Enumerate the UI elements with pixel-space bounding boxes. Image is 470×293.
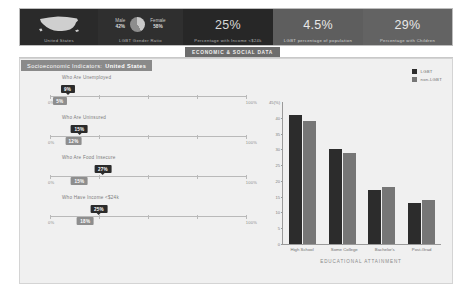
slider-value-lgbt[interactable]: 27% <box>95 165 112 173</box>
slider-tick <box>197 175 198 179</box>
chart-x-tick-label: Some College <box>331 247 358 252</box>
us-map-icon <box>38 14 80 35</box>
slider-value-lgbt[interactable]: 9% <box>61 85 75 93</box>
kpi-children-value: 29% <box>395 18 421 32</box>
kpi-gender-caption: LGBT Gender Ratio <box>98 38 183 43</box>
slider-track[interactable] <box>50 96 246 97</box>
legend-item[interactable]: non-LGBT <box>412 77 442 82</box>
chart-x-axis-title: EDUCATIONAL ATTAINMENT <box>282 259 440 264</box>
slider-tick <box>246 175 247 179</box>
slider-value-lgbt[interactable]: 15% <box>71 125 88 133</box>
slider-tick <box>99 175 100 179</box>
kpi-children-caption: Percentage with Children <box>363 38 452 43</box>
slider-tick <box>99 135 100 139</box>
chart-bar[interactable] <box>303 121 316 244</box>
chart-y-tick-label: 25 <box>262 163 280 168</box>
chart-y-tick-label: 30 <box>262 147 280 152</box>
kpi-population-caption: LGBT percentage of population <box>273 38 363 43</box>
panel-title-subject: United States <box>105 63 146 69</box>
chart-y-tick <box>281 212 284 213</box>
chart-bar[interactable] <box>422 200 435 244</box>
chart-y-tick <box>281 165 284 166</box>
slider-min-label: 0% <box>48 180 54 185</box>
female-value: 58% <box>150 24 165 31</box>
kpi-gender-ratio[interactable]: Male 42% Female 58% LGBT Gender Ratio <box>98 9 183 45</box>
chart-bar[interactable] <box>408 203 421 244</box>
panel-title-text: Socioeconomic Indicators: <box>27 63 102 69</box>
panel-title: Socioeconomic Indicators: United States <box>21 60 152 71</box>
kpi-income-value: 25% <box>215 18 241 32</box>
kpi-population-value: 4.5% <box>303 18 333 32</box>
legend-swatch <box>412 69 417 74</box>
female-stat: Female 58% <box>150 18 165 32</box>
chart-bar[interactable] <box>289 115 302 244</box>
slider-value-non-lgbt[interactable]: 15% <box>71 177 88 185</box>
slider-tick <box>246 95 247 99</box>
chart-y-tick-label: 40 <box>262 115 280 120</box>
slider-list: Who Are Unemployed0%100%9%5%Who Are Unin… <box>40 75 255 235</box>
male-value: 42% <box>115 24 125 31</box>
chart-x-tick-label: Post-Grad <box>412 247 432 252</box>
slider-label: Who Have Income <$24k <box>62 195 119 200</box>
slider-tick <box>50 215 51 219</box>
slider-max-label: 100% <box>246 220 257 225</box>
slider-tick <box>197 215 198 219</box>
chart-y-tick <box>281 181 284 182</box>
chart-y-tick <box>281 149 284 150</box>
slider-tick <box>148 215 149 219</box>
chart-bar-group <box>368 187 395 244</box>
kpi-with-children[interactable]: 29% Percentage with Children <box>363 9 452 45</box>
slider-label: Who Are Unemployed <box>62 75 111 80</box>
chart-bar[interactable] <box>343 153 356 245</box>
chart-y-tick <box>281 244 284 245</box>
kpi-strip: United States Male 42% Female 58% LGBT G… <box>19 8 453 46</box>
slider-tick <box>197 95 198 99</box>
legend-label: non-LGBT <box>421 77 442 82</box>
slider-tick <box>148 135 149 139</box>
kpi-region[interactable]: United States <box>20 9 98 45</box>
chart-y-tick <box>281 197 284 198</box>
slider-value-non-lgbt[interactable]: 5% <box>53 97 67 105</box>
legend-swatch <box>412 77 417 82</box>
chart-y-tick-label: 15 <box>262 194 280 199</box>
chart-x-tick-labels: High SchoolSome CollegeBachelor'sPost-Gr… <box>282 247 440 252</box>
chart-y-tick-label: 20 <box>262 178 280 183</box>
slider-tick <box>246 215 247 219</box>
chart-bar[interactable] <box>368 190 381 244</box>
slider-tick <box>50 175 51 179</box>
legend-item[interactable]: LGBT <box>412 69 442 74</box>
chart-y-tick-label: 35 <box>262 131 280 136</box>
kpi-income-caption: Percentage with Income <$24k <box>183 38 273 43</box>
male-label: Male <box>115 18 125 23</box>
chart-bar[interactable] <box>382 187 395 244</box>
slider-group: Who Are Uninsured0%100%15%12% <box>40 115 255 155</box>
slider-value-non-lgbt[interactable]: 12% <box>65 137 82 145</box>
chart-y-tick-label: 0 <box>262 242 280 247</box>
slider-min-label: 0% <box>48 140 54 145</box>
chart-bar[interactable] <box>329 149 342 244</box>
slider-tick <box>50 95 51 99</box>
chart-y-tick <box>281 118 284 119</box>
slider-label: Who Are Uninsured <box>62 115 106 120</box>
education-attainment-chart: LGBTnon-LGBT 051015202530354045(%) High … <box>260 69 446 277</box>
chart-bars <box>283 102 441 244</box>
slider-max-label: 100% <box>246 100 257 105</box>
slider-group: Who Are Food Insecure0%100%27%15% <box>40 155 255 195</box>
kpi-lgbt-population[interactable]: 4.5% LGBT percentage of population <box>273 9 363 45</box>
gender-ratio-graphic: Male 42% Female 58% <box>115 17 165 32</box>
pie-chart-icon <box>130 17 145 32</box>
legend-label: LGBT <box>421 69 433 74</box>
slider-value-lgbt[interactable]: 25% <box>91 205 108 213</box>
kpi-income-under-24k[interactable]: 25% Percentage with Income <$24k <box>183 9 273 45</box>
slider-tick <box>197 135 198 139</box>
socioeconomic-panel: Socioeconomic Indicators: United States … <box>19 58 453 284</box>
tab-economic-social-data[interactable]: ECONOMIC & SOCIAL DATA <box>185 47 280 57</box>
chart-bar-group <box>329 149 356 244</box>
female-label: Female <box>150 18 165 23</box>
slider-tick <box>99 95 100 99</box>
chart-y-tick-label: 10 <box>262 210 280 215</box>
slider-value-non-lgbt[interactable]: 18% <box>77 217 94 225</box>
slider-tick <box>99 215 100 219</box>
chart-y-axis-label: 45(%) <box>262 100 280 105</box>
male-stat: Male 42% <box>115 18 125 32</box>
